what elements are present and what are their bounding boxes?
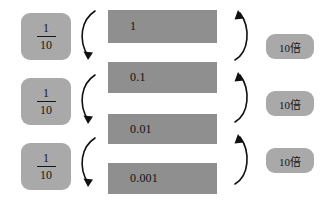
multiply-arrow-0.1-to-1: [225, 8, 255, 66]
value-bar-label: 1: [130, 19, 136, 34]
multiplier-label: 10倍: [279, 153, 301, 169]
multiplier-pill-3[interactable]: 10倍: [266, 148, 314, 173]
divide-arrow-0.01-to-0.001: [75, 135, 105, 193]
fraction-numerator: 1: [40, 22, 52, 35]
multiplier-label: 10倍: [279, 39, 301, 55]
fraction-denominator: 10: [37, 168, 55, 181]
value-bar-zero-point-one[interactable]: 0.1: [108, 62, 217, 93]
divide-arrow-0.1-to-0.01: [75, 72, 105, 130]
value-bar-label: 0.001: [130, 171, 158, 186]
fraction-chip-3[interactable]: 1 10: [21, 143, 71, 190]
fraction-one-tenth: 1 10: [37, 152, 56, 181]
fraction-chip-1[interactable]: 1 10: [21, 13, 71, 60]
fraction-one-tenth: 1 10: [37, 22, 56, 51]
fraction-divider: [37, 166, 56, 167]
fraction-numerator: 1: [40, 152, 52, 165]
multiplier-label: 10倍: [279, 96, 301, 112]
multiplier-pill-2[interactable]: 10倍: [266, 91, 314, 116]
multiply-arrow-0.001-to-0.01: [225, 132, 255, 190]
fraction-chip-2[interactable]: 1 10: [21, 78, 71, 125]
fraction-divider: [37, 101, 56, 102]
fraction-one-tenth: 1 10: [37, 87, 56, 116]
fraction-denominator: 10: [37, 38, 55, 51]
value-bar-zero-point-zero-zero-one[interactable]: 0.001: [108, 163, 217, 194]
divide-arrow-1-to-0.1: [75, 8, 105, 66]
fraction-denominator: 10: [37, 103, 55, 116]
value-bar-zero-point-zero-one[interactable]: 0.01: [108, 114, 217, 144]
value-bar-label: 0.01: [130, 122, 152, 137]
multiplier-pill-1[interactable]: 10倍: [266, 34, 314, 59]
value-bar-label: 0.1: [130, 70, 146, 85]
fraction-numerator: 1: [40, 87, 52, 100]
fraction-divider: [37, 36, 56, 37]
multiply-arrow-0.01-to-0.1: [225, 70, 255, 128]
value-bar-one[interactable]: 1: [108, 10, 217, 43]
diagram-canvas: 1 10 1 10 1 10 1 0.1 0.01 0.001 10倍 10: [0, 0, 329, 206]
